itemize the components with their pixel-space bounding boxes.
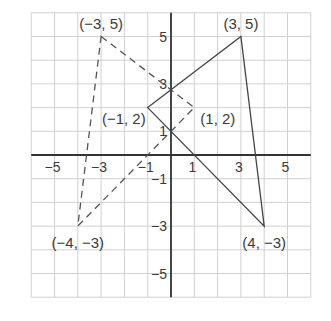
x-tick-label: −5 [45,159,61,175]
y-tick-label: −5 [151,266,167,282]
y-tick-label: −1 [151,171,167,187]
coordinate-plane: −5−3−1135531−1−3−5 (−3, 5)(1, 2)(−4, −3)… [0,0,331,321]
point-label: (3, 5) [223,15,258,32]
point-label: (−4, −3) [52,234,105,251]
y-tick-label: −3 [151,218,167,234]
point-label: (1, 2) [200,110,235,127]
point-label: (−3, 5) [79,15,123,32]
point-label: (4, −3) [242,234,286,251]
axes [31,13,311,297]
y-tick-label: 5 [159,29,167,45]
x-tick-label: 3 [235,159,243,175]
point-labels: (−3, 5)(1, 2)(−4, −3)(−1, 2)(3, 5)(4, −3… [52,15,287,252]
x-tick-label: −3 [91,159,107,175]
point-label: (−1, 2) [102,110,146,127]
x-tick-label: 5 [282,159,290,175]
x-tick-label: 1 [188,159,196,175]
